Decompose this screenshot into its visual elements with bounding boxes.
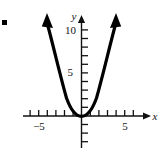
graph-figure: y x −5 5 5 10	[0, 0, 162, 164]
y-tick-label-10: 10	[65, 24, 77, 36]
curve-arrowhead-right	[110, 13, 121, 28]
y-axis-ticks	[82, 30, 89, 142]
answer-choice-bullet[interactable]	[2, 20, 7, 25]
y-axis-label: y	[71, 10, 77, 22]
x-tick-label-neg5: −5	[33, 120, 45, 132]
curve-arrowhead-left	[42, 13, 53, 28]
x-axis-label: x	[152, 110, 158, 122]
y-tick-label-5: 5	[68, 66, 74, 78]
parabola-plot: y x −5 5 5 10	[0, 0, 162, 164]
x-tick-label-5: 5	[122, 120, 128, 132]
